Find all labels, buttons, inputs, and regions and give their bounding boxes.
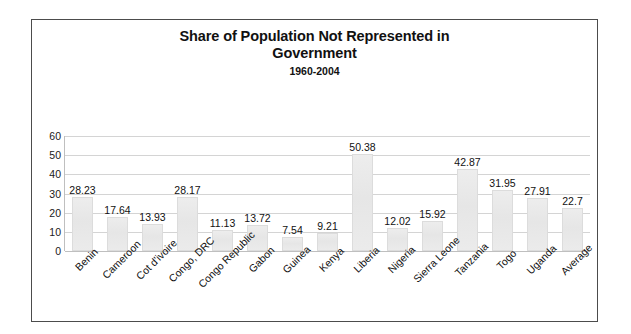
bar-value-label: 27.91 — [524, 185, 550, 197]
y-axis-tick-label: 10 — [33, 226, 61, 238]
bar-value-label: 31.95 — [489, 177, 515, 189]
bar-slot: 28.17 — [170, 136, 205, 251]
plot-wrapper: 6050403020100 28.2317.6413.9328.1711.131… — [32, 20, 597, 321]
bar-value-label: 15.92 — [419, 208, 445, 220]
category-slot: Tanzania — [449, 253, 484, 333]
bar-value-label: 28.23 — [69, 184, 95, 196]
bar-value-label: 12.02 — [384, 215, 410, 227]
category-slot: Togo — [484, 253, 519, 333]
chart-container: Share of Population Not Represented in G… — [31, 19, 598, 322]
bar[interactable] — [492, 190, 512, 251]
category-slot: Nigeria — [379, 253, 414, 333]
y-axis-tick-label: 40 — [33, 168, 61, 180]
bar-slot: 11.13 — [205, 136, 240, 251]
bar-slot: 27.91 — [520, 136, 555, 251]
bar-slot: 31.95 — [485, 136, 520, 251]
bar-value-label: 11.13 — [210, 217, 236, 229]
bar-value-label: 28.17 — [174, 184, 200, 196]
y-axis-tick-label: 30 — [33, 188, 61, 200]
category-slot: Cot d'ivoire — [134, 253, 169, 333]
bar-slot: 42.87 — [450, 136, 485, 251]
y-axis-tick-label: 20 — [33, 207, 61, 219]
bar[interactable] — [72, 197, 92, 251]
bar-slot: 22.7 — [555, 136, 590, 251]
bar-slot: 17.64 — [100, 136, 135, 251]
bar-value-label: 22.7 — [562, 195, 582, 207]
bar-slot: 15.92 — [415, 136, 450, 251]
bar[interactable] — [352, 154, 372, 251]
category-slot: Sierra Leone — [414, 253, 449, 333]
bar-slot: 50.38 — [345, 136, 380, 251]
bar[interactable] — [457, 169, 477, 251]
category-slot: Congo, DRC — [169, 253, 204, 333]
bar-slot: 9.21 — [310, 136, 345, 251]
category-slot: Liberia — [344, 253, 379, 333]
bar-value-label: 13.72 — [244, 212, 270, 224]
y-axis-tick-label: 60 — [33, 130, 61, 142]
bar-value-label: 7.54 — [282, 224, 302, 236]
bar[interactable] — [177, 197, 197, 251]
bar-value-label: 13.93 — [139, 211, 165, 223]
bar-slot: 7.54 — [275, 136, 310, 251]
bar-slot: 28.23 — [65, 136, 100, 251]
bar-value-label: 50.38 — [349, 141, 375, 153]
category-slot: Average — [554, 253, 589, 333]
plot-area: 28.2317.6413.9328.1711.1313.727.549.2150… — [64, 136, 590, 251]
bar-value-label: 9.21 — [317, 220, 337, 232]
category-slot: Gabon — [239, 253, 274, 333]
bar-series: 28.2317.6413.9328.1711.1313.727.549.2150… — [65, 136, 590, 251]
bar[interactable] — [562, 208, 582, 252]
bar-slot: 12.02 — [380, 136, 415, 251]
category-slot: Benin — [64, 253, 99, 333]
x-axis-category-labels: BeninCameroonCot d'ivoireCongo, DRCCongo… — [64, 253, 589, 333]
bar-value-label: 42.87 — [454, 156, 480, 168]
category-slot: Guinea — [274, 253, 309, 333]
bar-slot: 13.93 — [135, 136, 170, 251]
bar-value-label: 17.64 — [104, 204, 130, 216]
category-slot: Congo Republic — [204, 253, 239, 333]
category-slot: Kenya — [309, 253, 344, 333]
y-axis: 6050403020100 — [33, 130, 61, 252]
y-axis-tick-label: 0 — [33, 245, 61, 257]
y-axis-tick-label: 50 — [33, 149, 61, 161]
category-slot: Cameroon — [99, 253, 134, 333]
category-slot: Uganda — [519, 253, 554, 333]
bar[interactable] — [527, 198, 547, 251]
